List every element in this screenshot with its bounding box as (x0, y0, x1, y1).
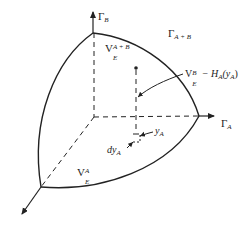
label-subvolume-a: VAE (77, 167, 85, 178)
gamma-b-subscript: B (104, 16, 108, 24)
subvolume-a-subscript: E (85, 179, 89, 186)
label-total-volume: VA + BE (105, 43, 113, 54)
label-slice-volume: VBE − HA(yA) (185, 69, 238, 81)
curve-top-left (38, 33, 93, 187)
ya-subscript: A (159, 130, 163, 138)
label-dya: dyA (107, 145, 121, 157)
label-gamma-a: ΓA (221, 118, 232, 131)
dya-subscript: A (116, 149, 120, 157)
leader-dya (127, 142, 133, 148)
subvolume-a-base: V (77, 166, 85, 178)
slice-volume-superscript: B (192, 70, 196, 77)
label-ya: yA (155, 126, 164, 138)
slice-volume-subscript: E (192, 81, 196, 88)
label-gamma-b: ΓB (98, 11, 109, 24)
total-volume-subscript: E (113, 55, 117, 62)
diagram-canvas (0, 0, 247, 225)
total-volume-base: V (105, 42, 113, 54)
subvolume-a-superscript: A (85, 168, 89, 175)
hidden-axis-depth (41, 117, 94, 187)
leader-slice-volume (138, 74, 183, 97)
slice-volume-minus-h: − H (202, 68, 218, 79)
depth-axis (22, 187, 41, 214)
slice-volume-close: ) (235, 68, 238, 79)
point-marker (134, 66, 138, 70)
total-volume-superscript: A + B (113, 44, 130, 51)
element-box (133, 134, 140, 142)
label-gamma-a-plus-b: ΓA + B (168, 28, 191, 41)
hidden-axis-horizontal (94, 116, 199, 117)
slice-volume-base: V (185, 68, 192, 79)
gamma-ab-subscript: A + B (174, 33, 191, 41)
leader-ya (140, 132, 153, 136)
gamma-a-subscript: A (227, 123, 231, 131)
